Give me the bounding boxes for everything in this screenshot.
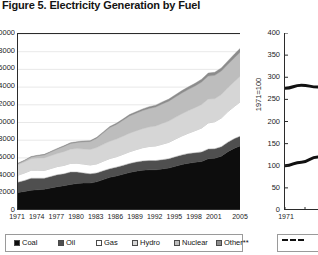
electricity-generation-area-chart: 2000018000160001400012000100008000600040… [0, 28, 240, 228]
legend-swatch-icon [96, 240, 102, 246]
x-axis-tick-label: 1971 [9, 212, 25, 221]
figure-container: Figure 5. Electricity Generation by Fuel… [0, 0, 318, 255]
y-axis-tick-label: 6000 [0, 153, 15, 161]
x-axis-tick-label: 1998 [186, 212, 202, 221]
legend-item-other: Other** [216, 238, 249, 247]
line-series-upper-curve [285, 85, 318, 115]
x-axis-tick-label: 1989 [127, 212, 143, 221]
y-axis-tick-label: 200 [267, 118, 280, 126]
legend-swatch-icon [216, 240, 222, 246]
dashed-line-icon [282, 239, 304, 241]
y-axis-tick-label: 20000 [0, 29, 15, 37]
legend-item-hydro: Hydro [132, 238, 160, 247]
x-axis-tick-label: 1971 [278, 212, 294, 221]
legend-item-coal: Coal [14, 238, 37, 247]
y-axis-tick-label: 50 [272, 184, 280, 192]
y-axis-tick-label: 100 [267, 162, 280, 170]
x-axis-tick-label: 2005 [232, 212, 248, 221]
x-axis-tick-label: 1980 [68, 212, 84, 221]
y-axis-tick-label: 250 [267, 95, 280, 103]
legend-item-label: Nuclear [182, 238, 208, 247]
y-axis-tick-label: 4000 [0, 171, 15, 179]
y-axis-tick-label: 8000 [0, 135, 15, 143]
x-axis-tick-label: 1977 [49, 212, 65, 221]
legend-item-label: Coal [22, 238, 37, 247]
x-axis-tick-label: 1983 [88, 212, 104, 221]
stacked-area-plot [18, 34, 240, 210]
y-axis-tick-label: 14000 [0, 82, 15, 90]
index-line-plot [285, 33, 318, 210]
left-chart-y-axis: 2000018000160001400012000100008000600040… [0, 28, 16, 210]
y-axis-tick-label: 12000 [0, 100, 15, 108]
y-axis-tick-label: 350 [267, 51, 280, 59]
legend-swatch-icon [58, 240, 64, 246]
legend-item-oil: Oil [58, 238, 75, 247]
legend-item-nuclear: Nuclear [174, 238, 208, 247]
index-line-chart: 1971=100 400350300250200150100500 1971 [248, 28, 318, 228]
legend-item-gas: Gas [96, 238, 118, 247]
legend-item-dashed [282, 239, 307, 241]
legend-item-label: Oil [66, 238, 75, 247]
y-axis-tick-label: 2000 [0, 188, 15, 196]
legend-swatch-icon [174, 240, 180, 246]
y-axis-tick-label: 150 [267, 140, 280, 148]
y-axis-tick-label: 300 [267, 73, 280, 81]
legend-swatch-icon [14, 240, 20, 246]
right-chart-y-axis: 400350300250200150100500 [262, 28, 282, 210]
x-axis-tick-label: 2001 [206, 212, 222, 221]
line-series-lower-curve [285, 136, 318, 166]
figure-title: Figure 5. Electricity Generation by Fuel [2, 0, 316, 12]
left-chart-x-axis: 1971197419771980198319861989199219951998… [17, 212, 240, 224]
y-axis-tick-label: 10000 [0, 118, 15, 126]
legend-item-label: Other** [224, 238, 249, 247]
x-axis-tick-label: 1992 [147, 212, 163, 221]
y-axis-tick-label: 16000 [0, 64, 15, 72]
y-axis-tick-label: 18000 [0, 47, 15, 55]
x-axis-tick-label: 1995 [167, 212, 183, 221]
right-chart-plot-area [284, 33, 318, 210]
fuel-legend: CoalOilGasHydroNuclearOther** [5, 234, 243, 252]
x-axis-tick-label: 1986 [108, 212, 124, 221]
x-axis-tick-label: 1974 [29, 212, 45, 221]
legend-item-label: Gas [104, 238, 118, 247]
legend-item-label: Hydro [140, 238, 160, 247]
y-axis-tick-label: 400 [267, 29, 280, 37]
right-chart-x-axis: 1971 [284, 212, 318, 224]
left-chart-plot-area [17, 33, 240, 210]
legend-swatch-icon [132, 240, 138, 246]
index-legend [277, 234, 318, 252]
